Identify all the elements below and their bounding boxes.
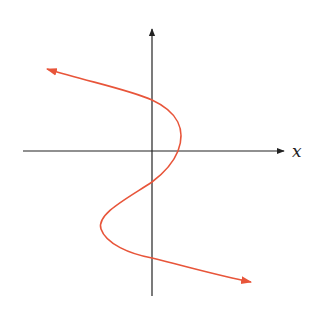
x-axis-label: x [292,141,302,161]
curve [47,69,251,282]
diagram-canvas: x [0,0,318,315]
